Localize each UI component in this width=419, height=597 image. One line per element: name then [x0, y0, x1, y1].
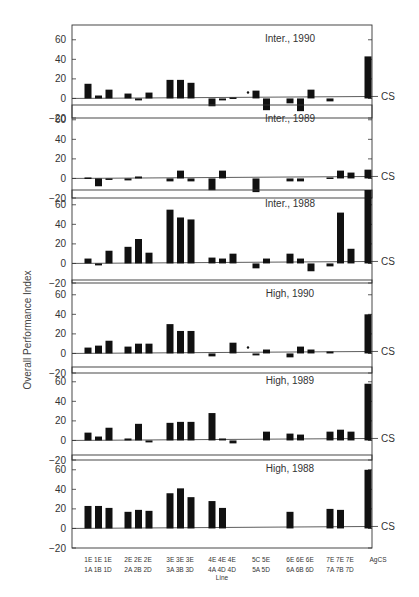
x-group-label-bottom: 5A 5D	[252, 566, 270, 573]
x-group-label-top: AgCS	[370, 556, 388, 564]
y-tick-label: 60	[55, 376, 67, 387]
bar	[365, 170, 372, 179]
y-tick-label: 20	[55, 73, 67, 84]
y-tick-label: 0	[60, 173, 66, 184]
bar	[327, 432, 334, 441]
bar	[95, 506, 102, 528]
y-tick-label: 0	[60, 523, 66, 534]
bar	[337, 213, 344, 264]
bar	[219, 438, 226, 440]
bar	[125, 438, 132, 440]
bar	[167, 324, 174, 353]
x-axis-labels: 1E 1E 1E2E 2E 2E3E 3E 3E4E 4E 4E5C 5E6E …	[84, 556, 387, 581]
panel-frame	[72, 190, 372, 283]
bar	[135, 176, 142, 178]
bar	[253, 91, 260, 99]
x-group-label-bottom: 2A 2B 2D	[124, 566, 152, 573]
bar	[219, 171, 226, 179]
y-tick-label: 20	[55, 238, 67, 249]
bar	[125, 94, 132, 99]
bar	[263, 98, 270, 110]
bar	[230, 440, 237, 443]
bar	[125, 347, 132, 354]
bar	[209, 353, 216, 356]
bar	[365, 190, 372, 263]
panels-container: 6040200−20CSInter., 19906040200−20CSInte…	[49, 25, 395, 554]
panel-frame	[72, 25, 372, 118]
bar	[348, 173, 355, 179]
bar	[85, 259, 92, 264]
bar	[365, 384, 372, 441]
y-tick-label: −20	[49, 278, 66, 289]
bar	[146, 511, 153, 529]
bar	[177, 171, 184, 179]
bar	[85, 84, 92, 99]
bar	[348, 249, 355, 264]
panel-inter-1990: 6040200−20CSInter., 1990	[49, 25, 395, 124]
bar	[95, 437, 102, 441]
bar	[297, 259, 304, 264]
y-tick-label: 20	[55, 153, 67, 164]
bar	[219, 259, 226, 264]
bar	[177, 488, 184, 528]
bar	[253, 263, 260, 268]
x-group-label-top: 5C 5E	[252, 556, 271, 563]
bar	[263, 350, 270, 354]
bar	[219, 508, 226, 529]
bar	[85, 433, 92, 441]
bar	[209, 501, 216, 528]
bar	[106, 178, 113, 180]
bar	[327, 351, 334, 353]
bar	[106, 508, 113, 529]
x-axis-title: Line	[216, 574, 229, 581]
bar	[287, 98, 294, 103]
cs-baseline	[72, 96, 378, 98]
cs-label: CS	[381, 346, 395, 357]
cs-label: CS	[381, 171, 395, 182]
panel-inter-1989: 6040200−20CSInter., 1989	[49, 105, 395, 204]
bar	[297, 178, 304, 181]
x-group-label-top: 7E 7E 7E	[326, 556, 354, 563]
panel-frame	[72, 105, 372, 198]
bar	[327, 98, 334, 101]
y-tick-label: 20	[55, 328, 67, 339]
bar	[167, 210, 174, 264]
y-tick-label: 0	[60, 348, 66, 359]
bar	[85, 348, 92, 354]
panel-frame	[72, 455, 372, 548]
cs-label: CS	[381, 91, 395, 102]
bar	[177, 331, 184, 353]
panel-title: Inter., 1990	[265, 33, 315, 44]
bar	[167, 178, 174, 181]
panel-title: Inter., 1989	[265, 113, 315, 124]
bar	[308, 350, 315, 354]
panel-high-1989: 6040200−20CSHigh, 1989	[49, 367, 395, 466]
bar	[188, 178, 195, 181]
bar	[135, 239, 142, 263]
bar	[209, 178, 216, 190]
bar	[188, 219, 195, 263]
marker-dot	[247, 346, 249, 348]
y-tick-label: −20	[49, 543, 66, 554]
bar	[287, 512, 294, 529]
figure: 6040200−20CSInter., 19906040200−20CSInte…	[0, 0, 419, 597]
y-tick-label: 40	[55, 309, 67, 320]
cs-label: CS	[381, 521, 395, 532]
y-tick-label: 20	[55, 503, 67, 514]
bar	[177, 422, 184, 441]
x-group-label-bottom: 4A 4D 4D	[208, 566, 236, 573]
panel-title: High, 1990	[266, 288, 315, 299]
bar	[219, 98, 226, 100]
bar	[230, 97, 237, 99]
panel-title: High, 1988	[266, 463, 315, 474]
bar	[287, 434, 294, 441]
bar	[287, 254, 294, 264]
bar	[188, 83, 195, 99]
panel-title: Inter., 1988	[265, 198, 315, 209]
bar	[95, 178, 102, 186]
bar	[106, 341, 113, 354]
bar	[327, 509, 334, 529]
x-group-label-top: 3E 3E 3E	[166, 556, 194, 563]
bar	[85, 506, 92, 528]
bar	[106, 251, 113, 264]
